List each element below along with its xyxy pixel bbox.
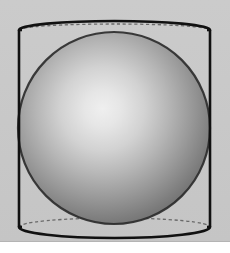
sphere-in-cylinder-figure: [0, 0, 230, 253]
figure-container: · ·· ··· ···· ·· ····· ··· ·· ···· ·· ··…: [0, 0, 230, 253]
